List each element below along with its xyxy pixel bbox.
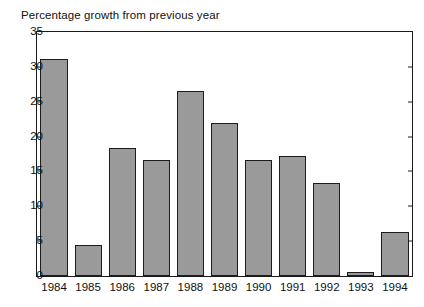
bar xyxy=(313,183,340,276)
bar-column xyxy=(211,32,238,276)
bar-chart: Percentage growth from previous year 051… xyxy=(0,0,424,307)
y-axis-tick-mark-right xyxy=(408,206,413,207)
bar xyxy=(211,123,238,276)
x-axis-tick-label: 1988 xyxy=(178,281,204,293)
y-axis-tick-mark xyxy=(36,206,41,207)
bar-column xyxy=(381,32,408,276)
y-axis-tick-mark xyxy=(36,66,41,67)
x-axis-tick-label: 1990 xyxy=(246,281,272,293)
x-axis-tick-label: 1985 xyxy=(75,281,101,293)
bar xyxy=(381,232,408,276)
bar-column xyxy=(279,32,306,276)
y-axis-tick-mark-right xyxy=(408,136,413,137)
bar xyxy=(177,91,204,276)
bar-column xyxy=(313,32,340,276)
y-axis-tick-mark xyxy=(36,101,41,102)
y-axis-tick-label: 0 xyxy=(13,270,43,282)
x-axis-tick-label: 1986 xyxy=(109,281,135,293)
bar-column xyxy=(347,32,374,276)
bar xyxy=(143,160,170,276)
bar-column xyxy=(177,32,204,276)
x-axis-tick-label: 1991 xyxy=(280,281,306,293)
bar xyxy=(40,59,67,276)
y-axis-tick-label: 35 xyxy=(13,26,43,38)
y-axis-tick-mark-right xyxy=(408,66,413,67)
x-axis-tick-label: 1984 xyxy=(41,281,67,293)
y-axis-tick-mark xyxy=(36,136,41,137)
chart-title: Percentage growth from previous year xyxy=(21,8,220,22)
bar-column xyxy=(75,32,102,276)
x-axis-tick-label: 1992 xyxy=(314,281,340,293)
bar-column xyxy=(109,32,136,276)
y-axis-tick-mark-right xyxy=(408,101,413,102)
x-axis-tick-label: 1989 xyxy=(212,281,238,293)
x-axis-tick-label: 1987 xyxy=(144,281,170,293)
bar-column xyxy=(40,32,67,276)
bar-column xyxy=(245,32,272,276)
x-axis-tick-label: 1994 xyxy=(382,281,408,293)
y-axis-tick-mark-right xyxy=(408,241,413,242)
y-axis-tick-mark-right xyxy=(408,171,413,172)
bar xyxy=(75,245,102,276)
x-axis-tick-label: 1993 xyxy=(348,281,374,293)
bar xyxy=(347,272,374,276)
bar xyxy=(245,160,272,276)
y-axis-tick-mark xyxy=(36,171,41,172)
bars-layer xyxy=(37,32,412,276)
bar-column xyxy=(143,32,170,276)
bar xyxy=(279,156,306,276)
bar xyxy=(109,148,136,276)
y-axis-tick-mark xyxy=(36,241,41,242)
